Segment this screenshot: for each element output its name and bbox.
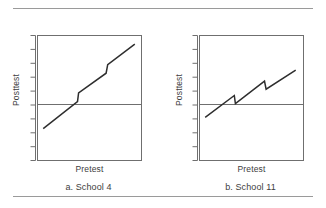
plot-svg-school-11 [163,14,326,162]
data-line-school-4 [43,44,135,129]
plot-area-school-11: Posttest [163,14,326,162]
chart-panel-school-11: Posttest Pretest b. School 11 [163,14,326,194]
plot-svg-school-4 [0,14,163,162]
y-axis-ticks [31,36,36,161]
data-line-school-11 [205,70,296,117]
y-axis-label-slot: Posttest [10,16,24,164]
x-axis-label: Pretest [163,164,326,174]
plot-box-border [200,36,304,161]
plot-box-border [38,36,142,161]
top-divider-rule [13,8,313,9]
y-axis-label: Posttest [173,16,185,164]
y-axis-label-slot: Posttest [173,16,187,164]
chart-panel-school-4: Posttest Pretest a. School 4 [0,14,163,194]
panel-caption-school-4: a. School 4 [0,182,163,192]
figure-root: Posttest Pretest a. School 4 [0,0,326,208]
panel-caption-school-11: b. School 11 [163,182,326,192]
bottom-divider-rule [13,196,313,197]
panel-container: Posttest Pretest a. School 4 [0,14,326,194]
y-axis-ticks [193,36,198,161]
y-axis-label: Posttest [10,16,22,164]
x-axis-label: Pretest [0,164,163,174]
plot-area-school-4: Posttest [0,14,163,162]
